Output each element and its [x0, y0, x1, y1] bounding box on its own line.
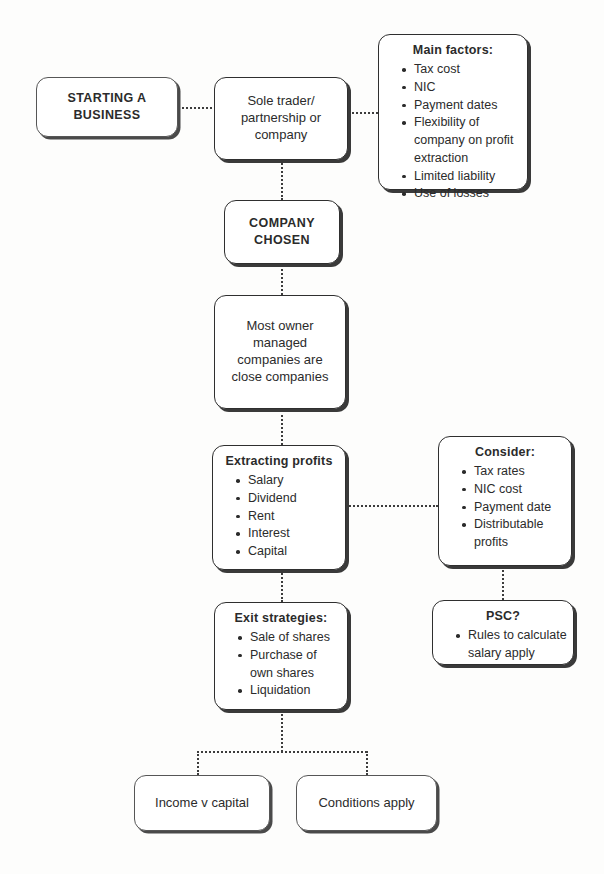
list-item: Rent	[235, 508, 339, 526]
list-item: Payment dates	[401, 97, 521, 115]
income-v-capital-label: Income v capital	[135, 795, 269, 812]
connector-exit-strategies-stem	[281, 710, 283, 752]
list-item: Tax cost	[401, 61, 521, 79]
node-conditions-apply[interactable]: Conditions apply	[296, 775, 437, 831]
list-item: Salary	[235, 472, 339, 490]
list-item: Payment date	[461, 499, 565, 517]
connector-consider-to-psc	[502, 566, 504, 600]
node-exit-strategies[interactable]: Exit strategies: Sale of shares Purchase…	[214, 602, 348, 710]
psc-list: Rules to calculate salary apply	[439, 627, 567, 663]
close-companies-line1: Most owner	[246, 318, 313, 333]
connector-split-to-income-v-capital	[197, 751, 199, 775]
list-item: Use of losses	[401, 185, 521, 203]
list-item: Sale of shares	[237, 629, 341, 647]
exit-strategies-list: Sale of shares Purchase of own shares Li…	[221, 629, 341, 700]
node-extracting-profits[interactable]: Extracting profits Salary Dividend Rent …	[212, 445, 346, 570]
node-company-chosen[interactable]: COMPANY CHOSEN	[224, 200, 340, 264]
connector-split-to-conditions-apply	[366, 751, 368, 775]
close-companies-line4: close companies	[232, 369, 329, 384]
company-chosen-label: COMPANY CHOSEN	[225, 215, 339, 249]
sole-trader-line3: company	[255, 127, 308, 142]
connector-close-companies-to-extracting-profits	[281, 410, 283, 445]
consider-list: Tax rates NIC cost Payment date Distribu…	[445, 463, 565, 552]
connector-extracting-profits-to-consider	[346, 505, 438, 507]
starting-a-business-label: STARTING A BUSINESS	[37, 90, 177, 124]
connector-starting-to-sole-trader	[178, 107, 216, 109]
close-companies-line3: companies are	[237, 352, 322, 367]
node-income-v-capital[interactable]: Income v capital	[134, 775, 270, 831]
list-item: NIC	[401, 79, 521, 97]
list-item: Purchase of own shares	[237, 647, 341, 683]
node-psc[interactable]: PSC? Rules to calculate salary apply	[432, 600, 574, 665]
node-close-companies[interactable]: Most owner managed companies are close c…	[214, 295, 346, 409]
node-sole-trader-partnership-company[interactable]: Sole trader/ partnership or company	[214, 77, 348, 160]
node-starting-a-business[interactable]: STARTING A BUSINESS	[36, 77, 178, 137]
list-item: Dividend	[235, 490, 339, 508]
node-consider[interactable]: Consider: Tax rates NIC cost Payment dat…	[438, 436, 572, 566]
starting-a-business-line2: BUSINESS	[73, 108, 140, 122]
list-item: Rules to calculate salary apply	[455, 627, 567, 663]
company-chosen-line2: CHOSEN	[254, 233, 310, 247]
connector-sole-trader-to-company-chosen	[281, 160, 283, 200]
main-factors-title: Main factors:	[385, 42, 521, 58]
list-item: Capital	[235, 543, 339, 561]
sole-trader-label: Sole trader/ partnership or company	[215, 93, 347, 144]
list-item: Distributable profits	[461, 516, 565, 552]
close-companies-label: Most owner managed companies are close c…	[215, 318, 345, 386]
main-factors-list: Tax cost NIC Payment dates Flexibility o…	[385, 61, 521, 203]
list-item: Tax rates	[461, 463, 565, 481]
list-item: Liquidation	[237, 682, 341, 700]
connector-extracting-profits-to-exit-strategies	[281, 570, 283, 602]
node-main-factors[interactable]: Main factors: Tax cost NIC Payment dates…	[378, 34, 528, 190]
exit-strategies-title: Exit strategies:	[221, 610, 341, 626]
extracting-profits-list: Salary Dividend Rent Interest Capital	[219, 472, 339, 561]
list-item: Limited liability	[401, 168, 521, 186]
close-companies-line2: managed	[253, 335, 307, 350]
psc-title: PSC?	[439, 608, 567, 624]
consider-title: Consider:	[445, 444, 565, 460]
list-item: NIC cost	[461, 481, 565, 499]
company-chosen-line1: COMPANY	[249, 216, 315, 230]
conditions-apply-label: Conditions apply	[297, 795, 436, 812]
sole-trader-line2: partnership or	[241, 110, 321, 125]
flowchart-canvas: STARTING A BUSINESS Sole trader/ partner…	[0, 0, 604, 874]
list-item: Interest	[235, 525, 339, 543]
connector-exit-strategies-split-bar	[197, 751, 367, 753]
connector-sole-trader-to-main-factors	[348, 112, 378, 114]
connector-company-chosen-to-close-companies	[281, 265, 283, 295]
extracting-profits-title: Extracting profits	[219, 453, 339, 469]
sole-trader-line1: Sole trader/	[247, 93, 314, 108]
starting-a-business-line1: STARTING A	[68, 91, 147, 105]
list-item: Flexibility of company on profit extract…	[401, 114, 521, 167]
